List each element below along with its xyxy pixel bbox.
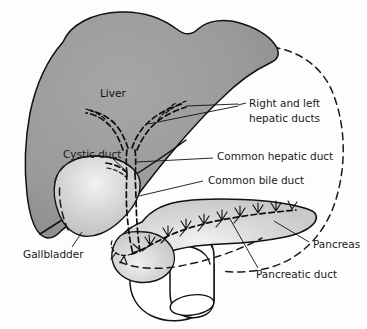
common-hepatic-duct-right-wall: [135, 150, 136, 174]
leader-common-bile-duct: [139, 181, 203, 196]
label-right-left-hepatic-ducts-line1: Right and left: [249, 97, 320, 109]
common-hepatic-duct-left-wall: [126, 150, 127, 174]
biliary-anatomy-diagram: Liver Right and left hepatic ducts Commo…: [0, 0, 367, 329]
label-right-left-hepatic-ducts-line2: hepatic ducts: [249, 112, 320, 124]
label-common-hepatic-duct: Common hepatic duct: [217, 150, 333, 162]
label-liver: Liver: [100, 87, 126, 99]
leader-hepatic-ducts-arrow: [238, 103, 246, 105]
label-gallbladder: Gallbladder: [23, 248, 84, 260]
anatomy-illustration: Liver Right and left hepatic ducts Commo…: [0, 0, 367, 329]
label-common-bile-duct: Common bile duct: [208, 174, 304, 186]
label-pancreas: Pancreas: [313, 238, 360, 250]
label-cystic-duct: Cystic duct: [63, 148, 121, 160]
label-pancreatic-duct: Pancreatic duct: [256, 268, 337, 280]
